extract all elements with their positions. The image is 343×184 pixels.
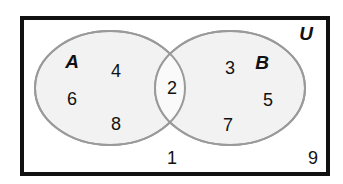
element-7: 7 <box>223 116 233 134</box>
venn-diagram-figure: A B U 4 6 8 2 3 5 7 1 9 <box>0 0 343 184</box>
set-a-label: A <box>65 52 79 71</box>
element-5: 5 <box>263 91 273 109</box>
universe-label: U <box>299 24 313 43</box>
element-2: 2 <box>167 79 177 97</box>
set-b-label: B <box>255 53 269 72</box>
element-4: 4 <box>111 62 121 80</box>
element-1: 1 <box>167 149 177 167</box>
element-9: 9 <box>308 149 318 167</box>
element-6: 6 <box>67 90 77 108</box>
element-3: 3 <box>225 59 235 77</box>
element-8: 8 <box>111 115 121 133</box>
